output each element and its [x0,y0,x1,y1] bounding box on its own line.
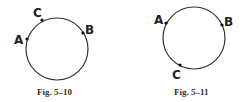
point-a-label: A [154,13,164,27]
figure-5-10: A C B Fig. 5–10 [14,6,94,97]
circle [163,7,225,69]
point-c-dot [178,63,181,66]
figures-canvas: A C B Fig. 5–10 A B C Fig. 5–11 [0,0,240,102]
point-b-label: B [224,15,233,29]
figure-5-11: A B C Fig. 5–11 [154,7,233,97]
circle [26,18,88,80]
point-b-label: B [85,23,94,37]
point-a-dot [164,21,167,24]
point-c-label: C [172,68,181,82]
point-c-label: C [33,6,42,20]
point-a-dot [25,37,28,40]
figure-caption: Fig. 5–10 [37,87,72,97]
figure-caption: Fig. 5–11 [174,87,209,97]
point-a-label: A [14,33,24,47]
